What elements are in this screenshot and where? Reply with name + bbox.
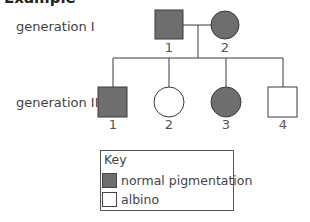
gen2-number-3: 3: [216, 117, 236, 132]
legend-box: Key normal pigmentation albino: [100, 150, 234, 211]
legend-swatch-normal-icon: [102, 173, 117, 188]
gen2-individual-4-male-albino: [268, 87, 297, 117]
legend-title: Key: [104, 152, 127, 167]
gen1-individual-1-male-affected: [155, 10, 183, 39]
legend-label-albino: albino: [121, 192, 159, 207]
legend-label-normal: normal pigmentation: [121, 173, 252, 188]
legend-swatch-albino-icon: [102, 192, 117, 207]
gen1-number-1: 1: [159, 40, 179, 55]
gen2-number-2: 2: [159, 117, 179, 132]
gen2-individual-1-male-affected: [98, 87, 127, 117]
legend-item-normal: normal pigmentation: [102, 173, 252, 188]
gen1-number-2: 2: [215, 40, 235, 55]
gen2-individual-2-female-albino: [154, 87, 184, 117]
generation-2-label: generation II: [16, 95, 99, 110]
gen1-individual-2-female-affected: [211, 11, 239, 39]
legend-item-albino: albino: [102, 192, 159, 207]
gen2-individual-3-female-affected: [211, 87, 241, 117]
gen2-number-1: 1: [103, 117, 123, 132]
generation-1-label: generation I: [16, 19, 95, 34]
gen2-number-4: 4: [273, 117, 293, 132]
